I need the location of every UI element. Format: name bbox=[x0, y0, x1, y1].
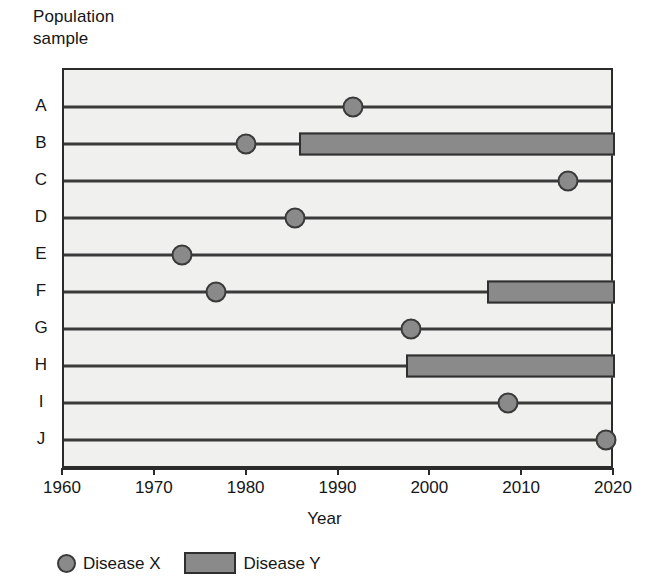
y-axis-tick-label-j: J bbox=[31, 430, 51, 447]
x-axis-tick-label-2020: 2020 bbox=[594, 478, 632, 498]
x-axis-title: Year bbox=[0, 509, 649, 529]
disease-x-marker-f bbox=[205, 282, 226, 303]
x-axis-tick-label-2010: 2010 bbox=[502, 478, 540, 498]
legend-label: Disease Y bbox=[243, 555, 320, 572]
disease-x-marker-c bbox=[558, 171, 579, 192]
x-axis-tick-label-1970: 1970 bbox=[135, 478, 173, 498]
disease-y-bar-f bbox=[487, 281, 615, 304]
y-axis-tick-label-e: E bbox=[31, 245, 51, 262]
disease-x-marker-g bbox=[401, 319, 422, 340]
category-row-line bbox=[64, 217, 611, 220]
legend-label: Disease X bbox=[83, 555, 160, 572]
y-axis-tick-label-b: B bbox=[31, 134, 51, 151]
y-axis-tick-label-d: D bbox=[31, 208, 51, 225]
category-row-line bbox=[64, 402, 611, 405]
x-axis-tick-label-1980: 1980 bbox=[227, 478, 265, 498]
y-axis-tick-label-i: I bbox=[31, 393, 51, 410]
y-axis-tick-label-c: C bbox=[31, 171, 51, 188]
y-axis-tick-label-f: F bbox=[31, 282, 51, 299]
disease-x-marker-j bbox=[595, 430, 616, 451]
disease-x-marker-a bbox=[343, 97, 364, 118]
legend-item-disease-y: Disease Y bbox=[184, 552, 320, 574]
chart-legend: Disease XDisease Y bbox=[57, 552, 321, 574]
y-axis-title: Population sample bbox=[33, 6, 114, 50]
legend-item-disease-x: Disease X bbox=[57, 554, 160, 573]
circle-marker-icon bbox=[57, 554, 76, 573]
y-axis-tick-label-g: G bbox=[31, 319, 51, 336]
disease-x-marker-e bbox=[171, 245, 192, 266]
x-axis-tick-2010 bbox=[520, 468, 522, 475]
x-axis-tick-label-1990: 1990 bbox=[319, 478, 357, 498]
x-axis-tick-1970 bbox=[153, 468, 155, 475]
x-axis-tick-1960 bbox=[61, 468, 63, 475]
category-row-line bbox=[64, 328, 611, 331]
plot-area bbox=[62, 68, 613, 468]
disease-x-marker-d bbox=[285, 208, 306, 229]
x-axis-tick-2000 bbox=[428, 468, 430, 475]
disease-x-marker-b bbox=[235, 134, 256, 155]
x-axis-tick-1990 bbox=[337, 468, 339, 475]
disease-x-marker-i bbox=[497, 393, 518, 414]
disease-y-bar-b bbox=[299, 133, 615, 156]
category-row-line bbox=[64, 106, 611, 109]
y-axis-tick-label-h: H bbox=[31, 356, 51, 373]
category-row-line bbox=[64, 254, 611, 257]
x-axis-tick-label-2000: 2000 bbox=[410, 478, 448, 498]
x-axis-tick-1980 bbox=[245, 468, 247, 475]
rectangle-marker-icon bbox=[184, 552, 236, 574]
x-axis-tick-label-1960: 1960 bbox=[43, 478, 81, 498]
disease-y-bar-h bbox=[406, 355, 615, 378]
category-row-line bbox=[64, 180, 611, 183]
y-axis-tick-label-a: A bbox=[31, 97, 51, 114]
category-row-line bbox=[64, 439, 611, 442]
plot-inner bbox=[64, 70, 611, 466]
x-axis-tick-2020 bbox=[612, 468, 614, 475]
